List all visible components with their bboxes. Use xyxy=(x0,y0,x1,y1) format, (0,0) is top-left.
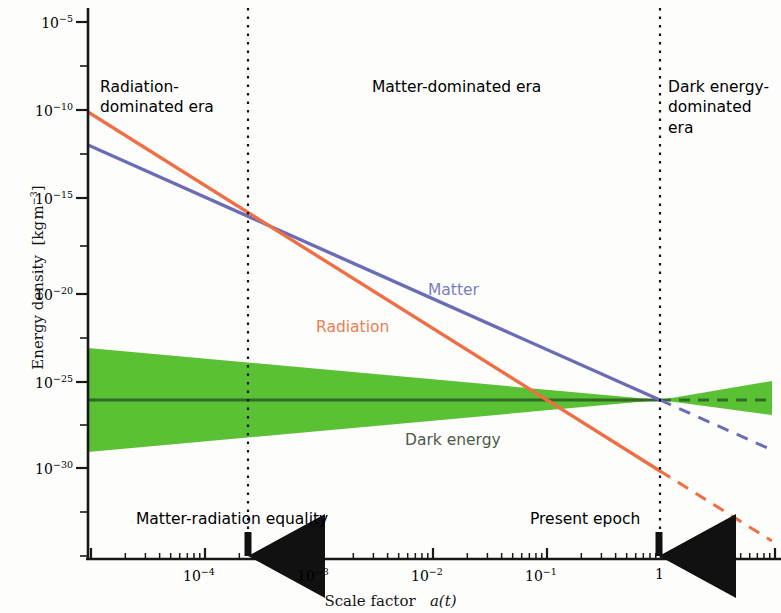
x-axis-title: Scale factor a(t) xyxy=(0,592,781,610)
radiation-curve xyxy=(88,112,772,541)
era-label-radiation: Radiation- dominated era xyxy=(100,77,214,118)
era-label-line: era xyxy=(668,118,769,138)
x-tick-label: 10−3 xyxy=(297,566,329,584)
dark-energy-curve-label: Dark energy xyxy=(405,431,501,449)
y-tick-label: 10−5 xyxy=(41,13,73,31)
y-axis-ticks xyxy=(76,22,88,556)
x-tick-label: 1 xyxy=(655,566,664,582)
era-label-line: Dark energy- xyxy=(668,77,769,97)
era-label-matter: Matter-dominated era xyxy=(372,77,541,97)
y-axis-title: Energy density [kg m−3] xyxy=(28,148,47,408)
matter-radiation-equality-label: Matter-radiation equality xyxy=(136,510,328,528)
present-epoch-label: Present epoch xyxy=(530,510,640,528)
x-tick-label: 10−4 xyxy=(183,566,215,584)
era-label-dark-energy: Dark energy- dominated era xyxy=(668,77,769,138)
radiation-curve-label: Radiation xyxy=(316,318,389,336)
y-tick-label: 10−10 xyxy=(35,101,73,119)
era-label-line: dominated era xyxy=(100,97,214,117)
event-arrows xyxy=(248,532,659,556)
x-axis-title-variable: a(t) xyxy=(430,592,457,610)
era-label-line: dominated xyxy=(668,97,769,117)
cosmology-energy-density-chart: 10−5 10−10 10−15 10−20 10−25 10−30 Energ… xyxy=(0,0,781,613)
matter-curve-label: Matter xyxy=(428,281,479,299)
era-label-line: Radiation- xyxy=(100,77,214,97)
x-axis-ticks xyxy=(91,548,775,559)
x-tick-label: 10−1 xyxy=(525,566,557,584)
era-label-line: Matter-dominated era xyxy=(372,77,541,97)
x-tick-label: 10−2 xyxy=(411,566,443,584)
y-axis-title-text: Energy density xyxy=(29,255,47,370)
y-tick-label: 10−30 xyxy=(35,459,73,477)
x-axis-title-text: Scale factor xyxy=(324,592,415,610)
